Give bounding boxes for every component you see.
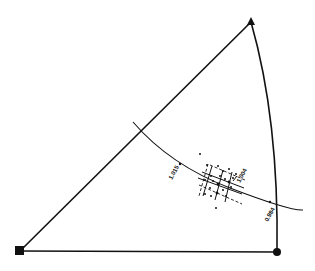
left-edge (20, 22, 251, 251)
tick-1015 (179, 163, 181, 165)
stereographic-triangle-diagram: 1.015 1.004 0.984 (0, 0, 315, 271)
bottom-edge (20, 251, 277, 252)
label-1004: 1.004 (236, 167, 249, 184)
circle-marker-icon (273, 248, 281, 256)
tick-0984 (269, 201, 271, 203)
label-1015: 1.015 (168, 164, 181, 181)
triangle-marker-icon (247, 17, 255, 25)
label-0984: 0.984 (264, 206, 277, 223)
square-marker-icon (15, 246, 24, 255)
scatter-points (199, 153, 237, 209)
